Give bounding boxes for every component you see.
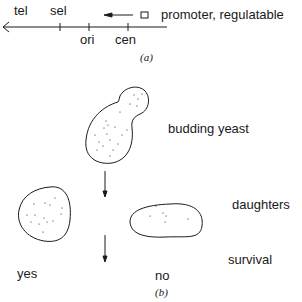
label-cen: cen <box>115 33 136 46</box>
caption-b: (b) <box>155 287 168 298</box>
label-sel: sel <box>50 4 67 17</box>
label-ori: ori <box>80 33 94 46</box>
label-survival: survival <box>228 253 272 266</box>
promoter-arrow-head-icon <box>104 13 112 17</box>
label-promoter: promoter, regulatable <box>161 8 284 21</box>
promoter-box-icon <box>141 12 148 18</box>
arrow-down-icon <box>103 256 107 262</box>
label-no: no <box>155 269 169 282</box>
budding-yeast-cell <box>86 87 149 163</box>
label-daughters: daughters <box>232 198 290 211</box>
arrow-down-icon <box>103 191 107 197</box>
daughter-cell-yes <box>18 187 70 242</box>
label-budding-yeast: budding yeast <box>168 122 249 135</box>
caption-a: (a) <box>140 52 153 63</box>
label-yes: yes <box>17 267 37 280</box>
daughter-dots <box>26 197 188 232</box>
label-tel: tel <box>14 4 28 17</box>
daughter-cell-no <box>130 204 202 237</box>
yeast-dots <box>94 93 142 156</box>
